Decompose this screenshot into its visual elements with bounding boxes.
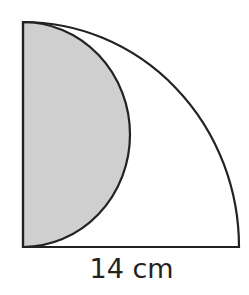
shaded-semicircle — [23, 22, 130, 247]
geometry-diagram — [0, 0, 249, 295]
base-length-label: 14 cm — [0, 252, 249, 286]
